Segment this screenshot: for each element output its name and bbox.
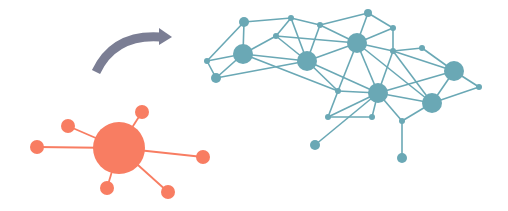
decentralized-network-edges <box>207 13 479 158</box>
mesh-node <box>317 22 323 28</box>
satellite-node <box>100 181 114 195</box>
mesh-edge <box>216 61 307 78</box>
satellite-node <box>30 140 44 154</box>
satellite-node <box>135 105 149 119</box>
mesh-node <box>233 44 253 64</box>
mesh-node <box>390 25 396 31</box>
mesh-node <box>211 73 221 83</box>
mesh-node <box>390 48 396 54</box>
mesh-node <box>476 84 482 90</box>
satellite-node <box>196 150 210 164</box>
mesh-node <box>419 45 425 51</box>
mesh-node <box>325 114 331 120</box>
mesh-edge <box>368 13 393 28</box>
mesh-edge <box>315 93 378 145</box>
hub-node <box>93 122 145 174</box>
decentralized-network-nodes <box>204 9 482 163</box>
mesh-node <box>310 140 320 150</box>
mesh-edge <box>291 18 320 25</box>
mesh-node <box>369 114 375 120</box>
mesh-node <box>335 88 341 94</box>
arrow-shaft <box>96 37 160 72</box>
mesh-edge <box>393 48 422 51</box>
mesh-node <box>397 153 407 163</box>
mesh-node <box>368 83 388 103</box>
network-transformation-diagram <box>0 0 508 211</box>
mesh-node <box>288 15 294 21</box>
mesh-node <box>204 58 210 64</box>
mesh-node <box>347 33 367 53</box>
centralized-network-nodes <box>30 105 210 199</box>
transformation-arrow-icon <box>96 28 172 72</box>
mesh-edge <box>320 13 368 25</box>
diagram-canvas <box>0 0 508 211</box>
mesh-node <box>297 51 317 71</box>
mesh-node <box>422 93 442 113</box>
mesh-node <box>273 33 279 39</box>
mesh-edge <box>276 18 291 36</box>
arrow-head <box>159 28 172 45</box>
mesh-node <box>239 17 249 27</box>
mesh-node <box>444 61 464 81</box>
satellite-node <box>61 119 75 133</box>
satellite-node <box>161 185 175 199</box>
mesh-edge <box>244 18 291 22</box>
mesh-node <box>399 118 405 124</box>
mesh-node <box>364 9 372 17</box>
